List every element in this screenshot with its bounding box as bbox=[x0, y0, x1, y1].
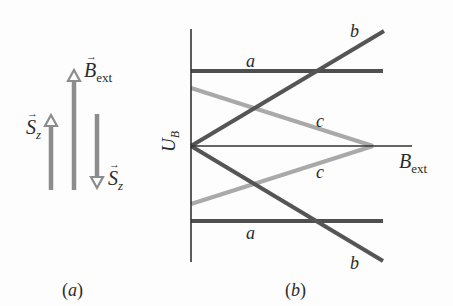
b-ext-vector-label: → Bext bbox=[84, 60, 112, 80]
line-label-c-lower: c bbox=[316, 163, 324, 181]
panel-a-caption: (a) bbox=[62, 280, 83, 301]
line-c-lower bbox=[191, 146, 373, 204]
vector-arrow-icon: → bbox=[109, 159, 120, 170]
vector-arrow-icon: → bbox=[27, 108, 38, 119]
spin-down-vector-label: → Sz bbox=[108, 168, 123, 188]
line-label-a-upper: a bbox=[246, 52, 255, 70]
x-axis-label: Bext bbox=[399, 151, 427, 171]
figure: → Bext → Sz → Sz (a) UB Bext a a b b c c… bbox=[0, 0, 453, 306]
spin-down-arrow bbox=[91, 114, 103, 188]
line-c-upper bbox=[191, 88, 373, 146]
line-label-a-lower: a bbox=[246, 224, 255, 242]
panel-b-caption: (b) bbox=[285, 280, 306, 301]
b-ext-arrow bbox=[68, 70, 80, 190]
vector-arrow-icon: → bbox=[86, 51, 97, 62]
line-label-c-upper: c bbox=[316, 112, 324, 130]
y-axis-label: UB bbox=[158, 131, 180, 152]
line-label-b-lower: b bbox=[350, 254, 359, 272]
spin-up-vector-label: → Sz bbox=[26, 117, 41, 137]
spin-up-arrow bbox=[45, 115, 57, 190]
line-label-b-upper: b bbox=[350, 22, 359, 40]
figure-graphics bbox=[0, 0, 453, 306]
line-b-upper bbox=[191, 31, 384, 146]
line-b-lower bbox=[191, 146, 383, 261]
